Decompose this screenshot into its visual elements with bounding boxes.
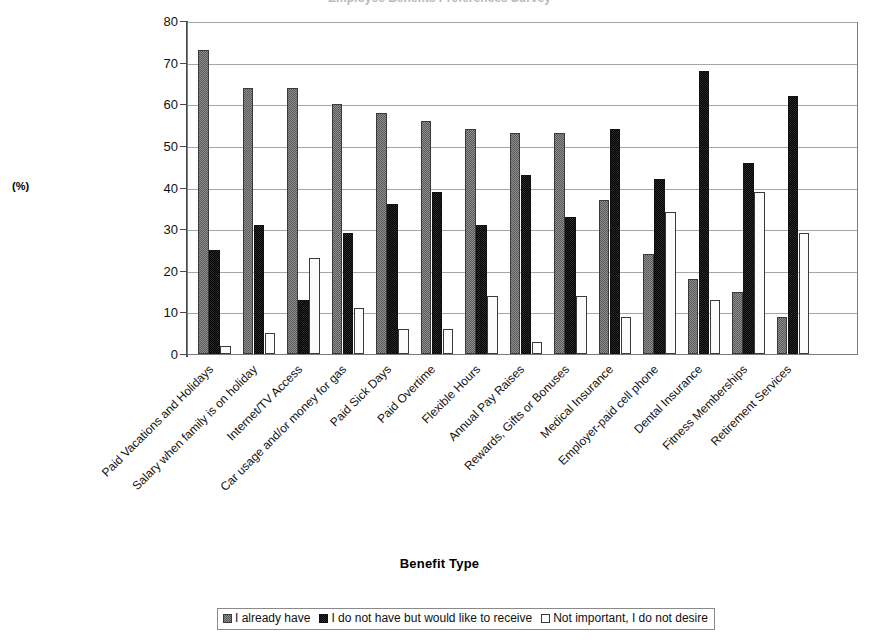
bar-group [635, 23, 680, 354]
bar-group [324, 23, 369, 354]
bar-group [546, 23, 591, 354]
bar [621, 317, 632, 354]
white-swatch [541, 614, 550, 623]
bar [220, 346, 231, 354]
bar-group [190, 23, 235, 354]
bar [665, 212, 676, 354]
x-axis-category-label: Employer-paid cell phone [556, 363, 660, 467]
bar [554, 133, 565, 354]
bar-group [235, 23, 280, 354]
y-axis-tick-label: 60 [142, 98, 178, 111]
y-axis-tick-label: 30 [142, 223, 178, 236]
chart-title-strip: Employee Benefits Preferences Survey [0, 0, 879, 9]
bar [743, 163, 754, 354]
bar [298, 300, 309, 354]
x-axis-category-label: Fitness Memberships [660, 363, 749, 452]
bar-group [591, 23, 636, 354]
bar [510, 133, 521, 354]
x-axis-category-label: Paid Sick Days [328, 363, 394, 429]
bar [521, 175, 532, 354]
bar-series-container [188, 23, 857, 354]
bar [688, 279, 699, 354]
y-axis-tick [180, 188, 186, 189]
y-axis-tick-label: 50 [142, 140, 178, 153]
y-axis-unit-label: (%) [12, 180, 29, 192]
y-axis-tick [180, 146, 186, 147]
legend-label: I do not have but would like to receive [331, 612, 532, 625]
bar [777, 317, 788, 354]
y-axis-tick-label: 80 [142, 15, 178, 28]
solid-dark-swatch [319, 614, 328, 623]
bar-group [680, 23, 725, 354]
x-axis-category-label: Dental Insurance [632, 363, 705, 436]
bar [732, 292, 743, 354]
y-axis-tick [180, 104, 186, 105]
y-axis-tick-label: 40 [142, 182, 178, 195]
bar [376, 113, 387, 354]
bar [476, 225, 487, 354]
bar [398, 329, 409, 354]
bar [788, 96, 799, 354]
x-axis-title: Benefit Type [0, 556, 879, 571]
legend-item: I already have [223, 612, 310, 625]
bar [332, 104, 343, 354]
y-axis-tick [180, 271, 186, 272]
legend-label: Not important, I do not desire [553, 612, 708, 625]
bar-group [769, 23, 814, 354]
bar [254, 225, 265, 354]
bar [198, 50, 209, 354]
x-axis-category-label: Medical Insurance [538, 363, 615, 440]
y-axis-tick [180, 63, 186, 64]
y-axis-tick-label: 10 [142, 306, 178, 319]
bar [799, 233, 810, 354]
bar [265, 333, 276, 354]
x-axis-category-label: Internet/TV Access [225, 363, 305, 443]
bar [487, 296, 498, 354]
y-axis-tick-label: 20 [142, 265, 178, 278]
bar [432, 192, 443, 354]
bar [287, 88, 298, 354]
y-axis-tick [180, 354, 186, 355]
x-axis-category-label: Flexible Hours [420, 363, 483, 426]
bar-group [279, 23, 324, 354]
bar [654, 179, 665, 354]
bar [532, 342, 543, 354]
bar-group [502, 23, 547, 354]
y-axis-tick [180, 21, 186, 22]
bar [576, 296, 587, 354]
chart-title: Employee Benefits Preferences Survey [0, 0, 879, 5]
bar [565, 217, 576, 354]
chart-legend: I already haveI do not have but would li… [217, 608, 715, 630]
legend-item: I do not have but would like to receive [319, 612, 532, 625]
x-axis-category-label: Car usage and/or money for gas [219, 363, 349, 493]
bar [465, 129, 476, 354]
bar [243, 88, 254, 354]
bar [610, 129, 621, 354]
bar [699, 71, 710, 354]
y-axis-tick [180, 312, 186, 313]
bar-group [724, 23, 769, 354]
x-axis-category-label: Rewards, Gifts or Bonuses [462, 363, 571, 472]
y-axis-tick-label: 70 [142, 57, 178, 70]
bar-chart: Employee Benefits Preferences Survey (%)… [0, 0, 879, 640]
bar [643, 254, 654, 354]
y-axis-tick [180, 229, 186, 230]
bar-group [368, 23, 413, 354]
plot-area [187, 22, 858, 355]
x-axis-category-label: Paid Overtime [375, 363, 437, 425]
bar-group [457, 23, 502, 354]
legend-label: I already have [235, 612, 310, 625]
bar [343, 233, 354, 354]
bar [309, 258, 320, 354]
legend-item: Not important, I do not desire [541, 612, 708, 625]
hatched-gray-swatch [223, 614, 232, 623]
bar [754, 192, 765, 354]
bar [387, 204, 398, 354]
bar [209, 250, 220, 354]
x-axis-category-label: Annual Pay Raises [447, 363, 527, 443]
bar [710, 300, 721, 354]
y-axis-tick-label: 0 [142, 348, 178, 361]
bar [421, 121, 432, 354]
bar [443, 329, 454, 354]
x-axis-category-label: Retirement Services [709, 363, 794, 448]
